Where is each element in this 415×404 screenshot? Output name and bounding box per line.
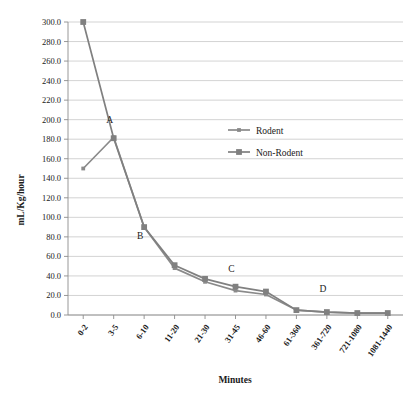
y-tick-label: 80.0 — [46, 232, 61, 242]
chart-container: 0.020.040.060.080.0100.0120.0140.0160.01… — [0, 0, 415, 404]
y-tick-label: 140.0 — [42, 173, 61, 183]
x-tick-label: 21-30 — [192, 322, 212, 344]
x-tick-label: 11-20 — [162, 322, 181, 344]
y-tick-label: 240.0 — [42, 76, 61, 86]
data-point-non-rodent — [80, 19, 86, 25]
y-tick-label: 200.0 — [42, 115, 61, 125]
x-tick-label: 31-45 — [223, 322, 243, 344]
y-tick-label: 280.0 — [42, 37, 61, 47]
data-point-non-rodent — [354, 310, 360, 316]
series-line-non-rodent — [83, 22, 388, 313]
data-point-non-rodent — [172, 262, 178, 268]
data-series-group — [80, 19, 390, 316]
data-point-non-rodent — [233, 284, 239, 290]
data-point-non-rodent — [263, 289, 269, 295]
y-tick-label: 40.0 — [46, 271, 61, 281]
y-tick-label: 100.0 — [42, 212, 61, 222]
legend: RodentNon-Rodent — [228, 126, 303, 158]
y-axis-ticks-group: 0.020.040.060.080.0100.0120.0140.0160.01… — [42, 17, 68, 320]
legend-label-rodent: Rodent — [256, 126, 284, 136]
data-point-rodent — [81, 167, 85, 171]
annotation-label-c: C — [228, 264, 234, 274]
data-point-non-rodent — [385, 310, 391, 316]
data-point-non-rodent — [294, 307, 300, 313]
annotation-label-b: B — [137, 231, 143, 241]
y-tick-label: 0.0 — [50, 310, 61, 320]
y-tick-label: 20.0 — [46, 290, 61, 300]
y-tick-label: 260.0 — [42, 56, 61, 66]
data-point-non-rodent — [324, 309, 330, 315]
gridlines-group — [68, 22, 403, 315]
x-axis-title: Minutes — [218, 375, 252, 385]
x-tick-label: 6-10 — [134, 322, 151, 341]
data-point-non-rodent — [111, 135, 117, 141]
legend-marker-non-rodent — [236, 149, 242, 155]
data-point-non-rodent — [141, 224, 147, 230]
x-tick-label: 61-360 — [281, 322, 303, 347]
data-point-non-rodent — [202, 276, 208, 282]
y-tick-label: 300.0 — [42, 17, 61, 27]
annotations-group: ABCD — [106, 115, 326, 294]
legend-label-non-rodent: Non-Rodent — [256, 148, 303, 158]
line-chart: 0.020.040.060.080.0100.0120.0140.0160.01… — [0, 0, 415, 404]
y-axis-title: mL/Kg/hour — [16, 174, 26, 226]
y-tick-label: 180.0 — [42, 134, 61, 144]
x-tick-label: 361-720 — [309, 322, 333, 351]
y-tick-label: 120.0 — [42, 193, 61, 203]
x-axis-ticks-group: 0-23-56-1011-2021-3031-4546-6061-360361-… — [75, 315, 394, 358]
y-tick-label: 220.0 — [42, 95, 61, 105]
x-tick-label: 46-60 — [253, 322, 273, 344]
x-tick-label: 0-2 — [75, 322, 90, 337]
x-tick-label: 3-5 — [106, 322, 121, 337]
annotation-label-d: D — [319, 284, 326, 294]
y-tick-label: 60.0 — [46, 251, 61, 261]
x-tick-label: 1081-1440 — [365, 322, 394, 358]
axis-lines-group — [68, 22, 403, 315]
x-tick-label: 721-1080 — [337, 322, 364, 354]
y-tick-label: 160.0 — [42, 154, 61, 164]
annotation-label-a: A — [106, 115, 113, 125]
legend-marker-rodent — [237, 128, 241, 132]
